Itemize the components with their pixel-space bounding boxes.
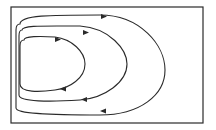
arrow-left-icon bbox=[60, 87, 66, 92]
inner-orbit bbox=[20, 36, 85, 91]
arrow-left-icon bbox=[81, 97, 87, 102]
arrow-left-icon bbox=[100, 109, 106, 114]
diagram-frame bbox=[11, 7, 203, 123]
outer-orbit bbox=[16, 15, 165, 115]
phase-portrait-diagram bbox=[0, 0, 216, 130]
arrow-right-icon bbox=[83, 30, 89, 35]
middle-orbit bbox=[19, 26, 127, 101]
